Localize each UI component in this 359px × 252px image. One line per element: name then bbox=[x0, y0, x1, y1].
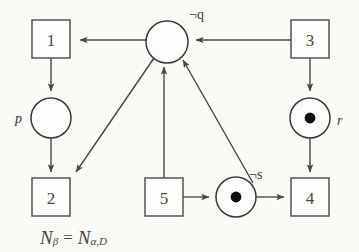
caption-rhs-subscript: α,D bbox=[90, 235, 107, 247]
caption-equals: = bbox=[63, 228, 73, 247]
arc-layer bbox=[51, 40, 310, 197]
transition-1[interactable]: 1 bbox=[32, 20, 70, 58]
transition-4[interactable]: 4 bbox=[291, 178, 329, 216]
transition-5[interactable]: 5 bbox=[145, 178, 183, 216]
figure-caption: Nβ=Nα,D bbox=[39, 227, 107, 248]
place-not-s[interactable]: ¬s bbox=[216, 167, 262, 218]
transition-3-label: 3 bbox=[306, 31, 315, 50]
transition-5-label: 5 bbox=[160, 189, 169, 208]
place-p[interactable]: p bbox=[14, 98, 71, 138]
token-dot-r bbox=[305, 113, 316, 124]
transition-1-label: 1 bbox=[47, 31, 56, 50]
token-dot-s bbox=[231, 192, 242, 203]
transition-2[interactable]: 2 bbox=[32, 178, 70, 216]
transition-3[interactable]: 3 bbox=[291, 20, 329, 58]
svg-text:Nβ=Nα,D: Nβ=Nα,D bbox=[39, 227, 107, 248]
transition-2-label: 2 bbox=[47, 189, 56, 208]
transition-4-label: 4 bbox=[306, 189, 315, 208]
place-p-label: p bbox=[14, 111, 22, 126]
place-not-q-label: ¬q bbox=[189, 7, 204, 22]
place-not-q[interactable]: ¬q bbox=[146, 7, 204, 64]
petri-net-diagram: 1 2 3 4 5 ¬q bbox=[0, 0, 359, 252]
place-r[interactable]: r bbox=[290, 98, 343, 138]
arc-q-to-2 bbox=[76, 58, 154, 172]
caption-net-subscript: β bbox=[52, 235, 59, 247]
arc-s-to-q bbox=[183, 60, 253, 183]
place-r-label: r bbox=[337, 113, 343, 128]
place-not-s-label: ¬s bbox=[249, 167, 262, 182]
figure-canvas: 1 2 3 4 5 ¬q bbox=[0, 0, 359, 252]
